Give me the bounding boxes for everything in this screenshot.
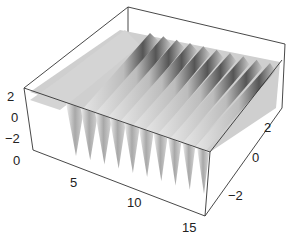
surface-spike	[168, 137, 181, 185]
svg-text:−2: −2	[228, 188, 243, 203]
svg-text:0: 0	[13, 153, 20, 168]
svg-text:0: 0	[11, 110, 18, 125]
svg-text:0: 0	[252, 150, 259, 165]
surface-spike	[124, 123, 139, 173]
surface-spike	[139, 127, 154, 177]
surface-spike	[95, 113, 112, 165]
svg-text:2: 2	[7, 89, 14, 104]
z-axis-ticks: 2 0 −2 0	[5, 89, 20, 168]
surface-spike	[182, 142, 195, 190]
svg-text:2: 2	[264, 120, 271, 135]
svg-text:5: 5	[70, 175, 77, 190]
surface-plot: 2 0 −2 0 5 10 15 2 0 −2	[0, 0, 287, 240]
surface-spike	[110, 118, 126, 169]
surface-spike	[81, 108, 98, 160]
svg-text:−2: −2	[5, 131, 20, 146]
svg-text:15: 15	[182, 220, 196, 235]
svg-text:10: 10	[127, 195, 141, 210]
surface-spike	[153, 132, 167, 181]
